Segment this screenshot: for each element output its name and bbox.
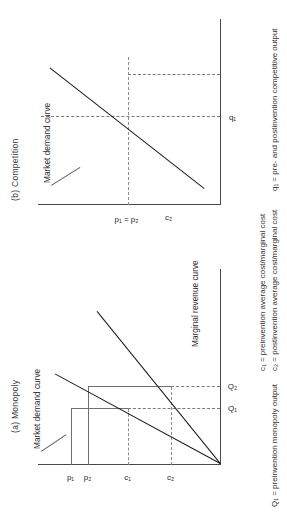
- monopoly-tick-c1: c₁: [124, 473, 131, 482]
- competition-tick-c2: c₂: [165, 213, 172, 222]
- panel-monopoly-title: (a) Monopoly: [10, 380, 20, 433]
- monopoly-marginal-revenue-curve: [97, 311, 221, 464]
- monopoly-tick-Q1: Q₁: [228, 404, 237, 413]
- legend-item-c2: c₂ = postinvention average cost/marginal…: [270, 210, 279, 371]
- legend-item-c1: c₁ = preinvention average cost/marginal …: [258, 214, 267, 371]
- guide-c1: [128, 409, 129, 465]
- monopoly-tick-Q2: Q₂: [228, 382, 237, 391]
- monopoly-quantity-axis: [220, 269, 221, 465]
- monopoly-tick-p1: p₁: [67, 473, 74, 482]
- panel-competition: (b) Competition Market demand curve p₁ =…: [8, 9, 246, 235]
- legend-item-q1: q₁ = pre- and postinvention competitive …: [270, 28, 279, 191]
- monopoly-price-axis: [38, 464, 220, 465]
- guide-q1-competition: [41, 116, 220, 117]
- panel-competition-title: (b) Competition: [10, 138, 20, 201]
- monopoly-market-demand-label: Market demand curve: [32, 369, 42, 449]
- panel-monopoly: (a) Monopoly Market demand curve Margina…: [8, 263, 246, 495]
- guide-c2: [171, 387, 172, 465]
- guide-p2: [88, 387, 89, 465]
- competition-price-axis: [38, 204, 220, 205]
- competition-quantity-axis: [220, 19, 221, 205]
- legend-item-Q1: Q₁ = preinvention monopoly output: [270, 384, 279, 507]
- guide-p1: [71, 409, 72, 465]
- competition-market-demand-leader: [51, 167, 80, 186]
- monopoly-market-demand-curve: [55, 373, 221, 464]
- monopoly-tick-p2: p₂: [84, 473, 92, 482]
- figure-canvas: (a) Monopoly Market demand curve Margina…: [0, 0, 287, 521]
- monopoly-market-demand-leader: [41, 434, 66, 452]
- competition-market-demand-label: Market demand curve: [42, 103, 52, 183]
- competition-tick-q1: q₁: [229, 113, 236, 122]
- guide-c2-competition: [128, 74, 220, 75]
- competition-tick-p1-p2: p₁ = p₂: [115, 215, 139, 224]
- monopoly-tick-c2: c₂: [167, 473, 174, 482]
- monopoly-marginal-revenue-label: Marginal revenue curve: [190, 260, 200, 347]
- guide-Q2: [171, 386, 220, 387]
